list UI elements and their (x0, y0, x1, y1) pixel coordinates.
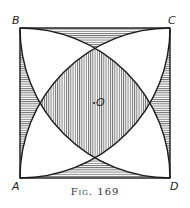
top-sliver (20, 28, 170, 48)
bottom-sliver (20, 158, 170, 178)
figure-diagram (0, 0, 190, 208)
label-O: O (96, 96, 105, 109)
label-B: B (12, 14, 20, 27)
figure-caption: Fig. 169 (0, 186, 190, 197)
left-sliver (20, 28, 40, 178)
right-sliver (150, 28, 170, 178)
label-C: C (168, 14, 176, 27)
center-point-O (93, 102, 95, 104)
